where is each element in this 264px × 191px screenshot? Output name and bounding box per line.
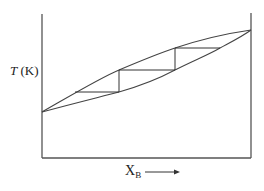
liquid-curve	[42, 30, 251, 112]
x-axis-symbol: X	[125, 163, 135, 178]
x-axis-label: XB	[125, 163, 141, 180]
right-arrow-icon	[174, 170, 180, 175]
y-axis-symbol: T	[10, 63, 17, 78]
x-axis-subscript: B	[135, 170, 141, 180]
y-axis-unit: (K)	[20, 63, 38, 78]
vapour-curve	[42, 30, 251, 112]
y-axis-label: T (K)	[10, 63, 39, 79]
